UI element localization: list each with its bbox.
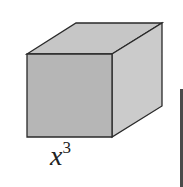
- cube-diagram: [0, 0, 183, 187]
- cube-volume-label: x3: [50, 140, 71, 172]
- cube-front-face: [27, 54, 112, 137]
- partial-object-edge: [180, 89, 183, 187]
- label-base: x: [50, 140, 62, 171]
- label-exponent: 3: [62, 138, 71, 157]
